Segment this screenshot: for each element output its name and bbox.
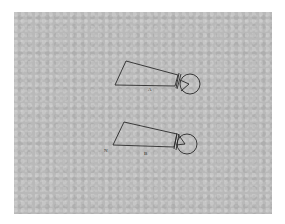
figure-a-label: A [148, 87, 152, 92]
figure-b [113, 122, 197, 154]
figure-a [115, 61, 200, 94]
side-mark: N [104, 148, 108, 153]
figure-b-body [113, 122, 177, 147]
figure-b-label: B [144, 151, 148, 156]
diagram-canvas: A B N [0, 0, 285, 224]
figure-a-body [115, 61, 178, 86]
figure-b-joint [174, 133, 185, 150]
figure-a-head [180, 74, 200, 94]
